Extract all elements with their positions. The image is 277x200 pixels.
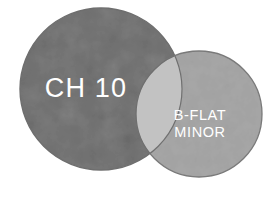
left-circle-label: CH 10	[45, 73, 128, 103]
right-circle-label-line2: MINOR	[174, 124, 225, 140]
right-circle-label-line1: B-FLAT	[174, 107, 226, 123]
venn-diagram: CH 10 B-FLAT MINOR	[0, 0, 277, 200]
venn-diagram-canvas: CH 10 B-FLAT MINOR	[0, 0, 277, 200]
